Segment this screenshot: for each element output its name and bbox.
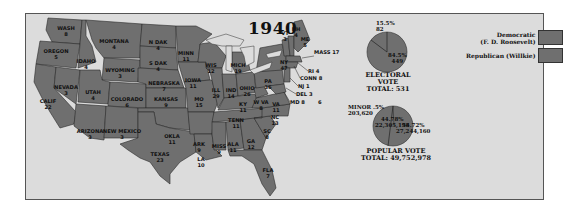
svg-text:MD 8: MD 8 — [290, 99, 305, 105]
popular-vote-caption: POPULAR VOTE TOTAL: 49,752,978 — [358, 148, 434, 162]
svg-text:11: 11 — [182, 56, 190, 62]
popular-minor-label: MINOR .5% 203,620 — [348, 104, 384, 116]
svg-text:15: 15 — [195, 102, 203, 108]
svg-text:3: 3 — [88, 134, 92, 140]
legend: Democratic (F. D. Roosevelt) Republican … — [466, 30, 563, 66]
svg-text:DEL 3: DEL 3 — [296, 91, 313, 97]
svg-text:7: 7 — [266, 173, 270, 179]
svg-text:4: 4 — [91, 95, 95, 101]
popular-dem-label: 54.72% 27,244,160 — [396, 122, 430, 134]
state-mass — [286, 56, 302, 62]
svg-text:9: 9 — [197, 147, 201, 153]
election-year-title: 1940 — [248, 18, 297, 38]
svg-text:RI 4: RI 4 — [308, 68, 320, 74]
svg-text:12: 12 — [207, 68, 215, 74]
svg-text:29: 29 — [212, 93, 220, 99]
svg-text:8: 8 — [259, 105, 263, 111]
state-ark — [188, 112, 214, 134]
legend-swatch-republican — [538, 48, 563, 63]
svg-text:19: 19 — [234, 68, 242, 74]
electoral-vote-caption: ELECTORAL VOTE TOTAL: 531 — [356, 72, 420, 93]
legend-item-democratic: Democratic (F. D. Roosevelt) — [466, 30, 563, 45]
svg-text:47: 47 — [280, 65, 288, 71]
svg-text:11: 11 — [239, 107, 247, 113]
svg-text:5: 5 — [303, 42, 307, 48]
svg-text:6: 6 — [318, 99, 322, 105]
svg-text:7: 7 — [162, 86, 166, 92]
state-oregon — [36, 41, 80, 68]
svg-text:26: 26 — [243, 91, 251, 97]
svg-text:23: 23 — [156, 157, 164, 163]
svg-text:MASS 17: MASS 17 — [314, 49, 340, 55]
svg-text:CONN 8: CONN 8 — [300, 75, 323, 81]
svg-text:4: 4 — [156, 45, 160, 51]
svg-text:36: 36 — [264, 84, 272, 90]
svg-text:3: 3 — [118, 73, 122, 79]
svg-text:10: 10 — [197, 162, 205, 168]
legend-item-republican: Republican (Willkie) — [466, 48, 563, 63]
svg-text:9: 9 — [164, 102, 168, 108]
svg-text:4: 4 — [112, 44, 116, 50]
svg-text:8: 8 — [64, 31, 68, 37]
svg-text:11: 11 — [168, 139, 176, 145]
svg-text:11: 11 — [272, 107, 280, 113]
svg-text:3: 3 — [120, 134, 124, 140]
svg-text:5: 5 — [54, 54, 58, 60]
svg-text:4: 4 — [84, 64, 88, 70]
svg-text:14: 14 — [227, 93, 235, 99]
svg-text:22: 22 — [44, 104, 52, 110]
electoral-dem-label: 84.5% 449 — [388, 52, 407, 64]
svg-text:8: 8 — [265, 134, 269, 140]
svg-text:11: 11 — [232, 123, 240, 129]
legend-swatch-democratic — [538, 30, 563, 45]
electoral-rep-label: 15.5% 82 — [376, 20, 395, 32]
svg-text:4: 4 — [156, 66, 160, 72]
svg-text:6: 6 — [125, 102, 129, 108]
svg-text:13: 13 — [271, 120, 279, 126]
svg-text:11: 11 — [189, 83, 197, 89]
lake-michigan — [226, 46, 232, 72]
svg-text:NJ 1: NJ 1 — [298, 83, 310, 90]
svg-text:9: 9 — [217, 149, 221, 155]
svg-text:12: 12 — [247, 144, 255, 150]
svg-text:3: 3 — [64, 90, 68, 96]
svg-text:11: 11 — [229, 147, 237, 153]
